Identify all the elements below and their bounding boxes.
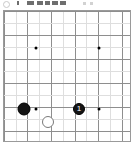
black-stone[interactable] <box>18 103 31 116</box>
grid-line-horizontal-2 <box>4 35 130 36</box>
grid-line-horizontal-0 <box>4 11 130 12</box>
hoshi-lower-right <box>98 108 101 111</box>
grid-line-vertical-1 <box>16 11 17 141</box>
toolbar-button-icon-faint-0[interactable] <box>83 2 86 5</box>
toolbar-button-icon-2[interactable] <box>37 1 43 5</box>
grid-line-horizontal-1 <box>4 23 130 24</box>
toolbar <box>0 0 134 9</box>
grid-line-vertical-2 <box>27 11 28 141</box>
grid-line-horizontal-9 <box>4 119 130 120</box>
stone-move-number: 1 <box>74 104 84 114</box>
hoshi-upper-left <box>35 47 38 50</box>
hoshi-lower-left <box>35 108 38 111</box>
grid-line-horizontal-4 <box>4 59 130 60</box>
toolbar-button-icon-3[interactable] <box>45 1 50 5</box>
grid-line-horizontal-7 <box>4 95 130 96</box>
go-board-app: 1 <box>0 0 134 144</box>
toolbar-button-icon-0[interactable] <box>17 1 19 5</box>
grid-line-vertical-3 <box>39 11 40 141</box>
circle-outline-icon[interactable] <box>3 1 10 8</box>
grid-line-vertical-7 <box>86 11 87 141</box>
grid-line-horizontal-3 <box>4 47 130 48</box>
toolbar-button-icon-faint-1[interactable] <box>90 2 93 5</box>
toolbar-button-icon-5[interactable] <box>60 1 66 5</box>
grid-line-horizontal-5 <box>4 71 130 72</box>
grid-line-vertical-5 <box>63 11 64 141</box>
hoshi-upper-right <box>98 47 101 50</box>
toolbar-button-icon-4[interactable] <box>52 1 58 5</box>
toolbar-button-icon-1[interactable] <box>27 1 34 5</box>
white-stone[interactable] <box>42 116 54 128</box>
grid-line-horizontal-10 <box>4 131 130 132</box>
black-stone-move-1[interactable]: 1 <box>73 103 85 115</box>
grid-line-vertical-9 <box>110 11 111 141</box>
board-grid[interactable]: 1 <box>3 10 131 142</box>
grid-line-vertical-10 <box>122 11 123 141</box>
grid-line-vertical-0 <box>4 11 5 141</box>
grid-line-horizontal-6 <box>4 83 130 84</box>
grid-line-vertical-8 <box>98 11 99 141</box>
board-area[interactable]: 1 <box>0 9 134 144</box>
grid-line-vertical-6 <box>75 11 76 141</box>
